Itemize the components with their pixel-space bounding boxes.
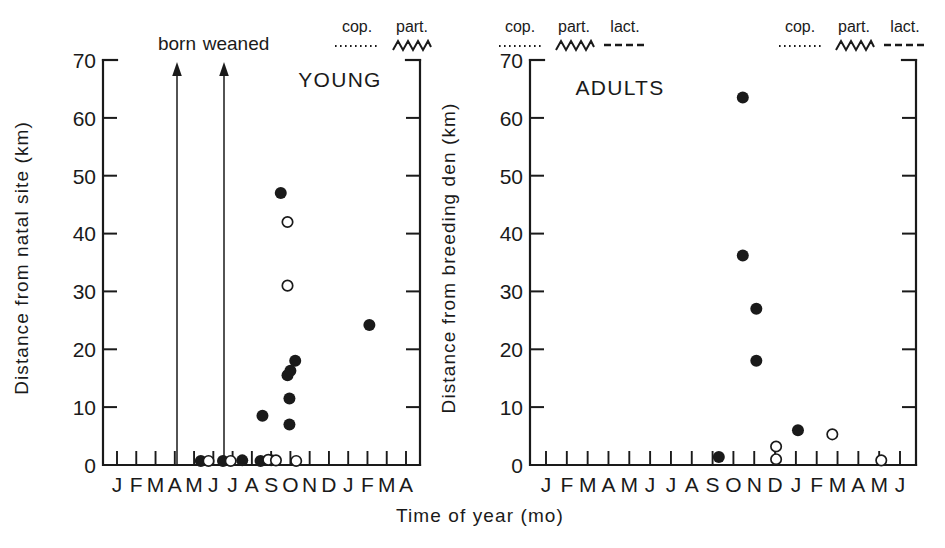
data-point-open (282, 280, 292, 290)
svg-text:10: 10 (73, 396, 96, 419)
data-point-filled (236, 454, 248, 466)
x-tick-label: J (343, 473, 354, 496)
x-tick-label: M (579, 473, 597, 496)
x-axis-title: Time of year (mo) (396, 505, 564, 526)
x-tick-label: N (302, 473, 317, 496)
x-tick-label: F (361, 473, 374, 496)
data-point-filled (713, 451, 725, 463)
svg-text:20: 20 (500, 338, 523, 361)
adults-panel-title: ADULTS (575, 76, 664, 99)
data-point-open (271, 455, 281, 465)
svg-text:30: 30 (73, 280, 96, 303)
svg-text:40: 40 (73, 222, 96, 245)
x-tick-label: S (706, 473, 720, 496)
adults-legend-right-part-label: part. (838, 18, 870, 35)
adults-x-tick-labels: JFMAMJJASONDJFMAMJ (541, 473, 906, 496)
data-point-open (827, 429, 837, 439)
adults-y-ticks-right (902, 118, 916, 407)
x-tick-label: M (185, 473, 203, 496)
x-tick-label: A (685, 473, 699, 496)
adults-y-tick-labels: 0 10 20 30 40 50 60 70 (500, 49, 523, 477)
data-point-filled (256, 410, 268, 422)
data-point-filled (275, 187, 287, 199)
young-legend-cop-label: cop. (342, 18, 372, 35)
svg-text:50: 50 (73, 165, 96, 188)
x-tick-label: J (895, 473, 906, 496)
x-tick-label: J (791, 473, 802, 496)
x-tick-label: M (621, 473, 639, 496)
x-tick-label: M (147, 473, 165, 496)
young-y-ticks-right (406, 118, 420, 407)
svg-text:70: 70 (73, 49, 96, 72)
adults-legend-right-part-swatch (836, 41, 874, 50)
adults-legend-right: cop. part. lact. (779, 18, 927, 50)
adults-legend-left-part-swatch (556, 41, 594, 50)
young-y-tick-labels: 0 10 20 30 40 50 60 70 (73, 49, 96, 477)
svg-text:20: 20 (73, 338, 96, 361)
x-tick-label: A (168, 473, 182, 496)
x-tick-label: J (112, 473, 123, 496)
adults-y-ticks (530, 60, 544, 465)
data-point-open (282, 217, 292, 227)
young-legend-part-label: part. (396, 18, 428, 35)
x-tick-label: J (666, 473, 677, 496)
adults-axis-spines (530, 60, 916, 465)
born-label: born (158, 33, 196, 54)
panel-adults: Distance from breeding den (km) (438, 18, 927, 496)
x-tick-label: M (870, 473, 888, 496)
young-data-points (195, 187, 376, 467)
young-y-axis-title: Distance from natal site (km) (11, 121, 32, 395)
x-tick-label: F (130, 473, 143, 496)
young-y-ticks (103, 60, 117, 465)
young-panel-title: YOUNG (298, 68, 382, 91)
adults-legend-left: cop. part. lact. (499, 18, 647, 50)
adults-y-axis-title: Distance from breeding den (km) (438, 103, 459, 414)
x-tick-label: D (321, 473, 336, 496)
svg-text:0: 0 (84, 454, 96, 477)
x-tick-label: A (399, 473, 413, 496)
adults-legend-right-lact-label: lact. (890, 18, 919, 35)
adults-legend-left-cop-label: cop. (505, 18, 535, 35)
x-tick-label: M (378, 473, 396, 496)
data-point-filled (737, 250, 749, 262)
x-tick-label: J (208, 473, 219, 496)
x-tick-label: J (227, 473, 238, 496)
svg-text:10: 10 (500, 396, 523, 419)
x-tick-label: D (767, 473, 782, 496)
x-tick-label: J (645, 473, 656, 496)
svg-text:0: 0 (511, 454, 523, 477)
x-tick-label: A (601, 473, 615, 496)
panel-young: Distance from natal site (km) (11, 18, 431, 496)
data-point-filled (363, 319, 375, 331)
data-point-open (225, 456, 235, 466)
adults-legend-right-cop-label: cop. (785, 18, 815, 35)
figure-container: Distance from natal site (km) (0, 0, 945, 548)
x-tick-label: A (851, 473, 865, 496)
svg-text:70: 70 (500, 49, 523, 72)
x-tick-label: F (560, 473, 573, 496)
data-point-filled (737, 92, 749, 104)
young-annotation-born: born (158, 33, 196, 465)
x-tick-label: O (282, 473, 298, 496)
data-point-filled (750, 355, 762, 367)
data-point-open (771, 441, 781, 451)
data-point-open (203, 456, 213, 466)
x-tick-label: N (747, 473, 762, 496)
adults-legend-left-part-label: part. (558, 18, 590, 35)
x-tick-label: M (829, 473, 847, 496)
data-point-filled (792, 424, 804, 436)
data-point-filled (289, 355, 301, 367)
data-point-open (876, 455, 886, 465)
young-legend: cop. part. (335, 18, 431, 50)
svg-text:40: 40 (500, 222, 523, 245)
scatter-figure: Distance from natal site (km) (0, 0, 945, 548)
x-tick-label: S (264, 473, 278, 496)
weaned-label: weaned (202, 33, 270, 54)
x-tick-label: F (810, 473, 823, 496)
svg-text:60: 60 (500, 107, 523, 130)
svg-text:60: 60 (73, 107, 96, 130)
adults-legend-left-lact-label: lact. (610, 18, 639, 35)
data-point-filled (283, 392, 295, 404)
data-point-open (291, 456, 301, 466)
data-point-open (771, 454, 781, 464)
